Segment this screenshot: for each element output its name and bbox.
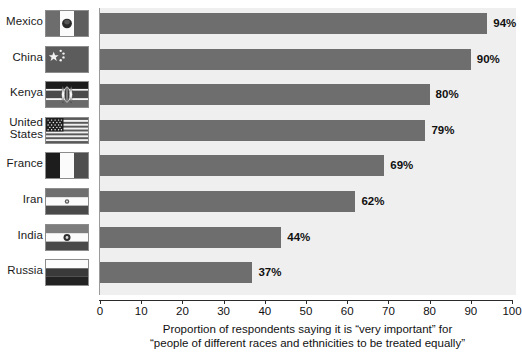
country-label-line: States bbox=[0, 128, 43, 141]
bar bbox=[100, 227, 281, 248]
x-axis-tick-label: 70 bbox=[382, 305, 395, 317]
x-axis-tick-label: 10 bbox=[135, 305, 148, 317]
x-axis-tick bbox=[471, 300, 472, 304]
x-axis-tick-label: 40 bbox=[258, 305, 271, 317]
bar bbox=[100, 120, 425, 141]
bar bbox=[100, 13, 487, 34]
bar-row: France 69% bbox=[0, 150, 516, 185]
x-axis-tick bbox=[430, 300, 431, 304]
bar-row: China 90% bbox=[0, 44, 516, 79]
bar-row: Iran 62% bbox=[0, 186, 516, 221]
bar-row: Mexico 94% bbox=[0, 8, 516, 43]
x-axis-tick bbox=[388, 300, 389, 304]
country-label-line: Mexico bbox=[0, 15, 43, 28]
x-axis-tick bbox=[182, 300, 183, 304]
country-label: China bbox=[0, 51, 43, 64]
bar-value-label: 79% bbox=[431, 120, 454, 141]
bar bbox=[100, 49, 471, 70]
bar-row: UnitedStates bbox=[0, 115, 516, 150]
bar-value-label: 80% bbox=[436, 84, 459, 105]
country-label-line: Russia bbox=[0, 264, 43, 277]
x-axis-tick-label: 30 bbox=[217, 305, 230, 317]
flag-russia-icon bbox=[45, 259, 89, 286]
bar-row: India 44% bbox=[0, 222, 516, 257]
x-axis-tick bbox=[141, 300, 142, 304]
country-label-line: Kenya bbox=[0, 86, 43, 99]
caption-line-1: Proportion of respondents saying it is “… bbox=[99, 322, 516, 336]
caption-line-2: “people of different races and ethniciti… bbox=[99, 336, 516, 350]
bar bbox=[100, 191, 355, 212]
country-label: Mexico bbox=[0, 15, 43, 28]
country-label-line: India bbox=[0, 229, 43, 242]
flag-kenya-icon bbox=[45, 81, 89, 108]
bar-value-label: 69% bbox=[390, 155, 413, 176]
flag-india-icon bbox=[45, 224, 89, 251]
bar-value-label: 37% bbox=[258, 262, 281, 283]
x-axis-tick bbox=[100, 300, 101, 304]
flag-mexico-icon bbox=[45, 10, 89, 37]
country-label: UnitedStates bbox=[0, 116, 43, 141]
x-axis-tick-label: 60 bbox=[341, 305, 354, 317]
flag-china-icon bbox=[45, 46, 89, 73]
country-label: Kenya bbox=[0, 86, 43, 99]
x-axis-tick bbox=[512, 300, 513, 304]
bar bbox=[100, 262, 252, 283]
bar-value-label: 44% bbox=[287, 227, 310, 248]
country-label-line: Iran bbox=[0, 193, 43, 206]
x-axis-tick bbox=[306, 300, 307, 304]
bar-row: Kenya 80% bbox=[0, 79, 516, 114]
x-axis-tick-label: 90 bbox=[464, 305, 477, 317]
country-label-line: France bbox=[0, 157, 43, 170]
country-label: Russia bbox=[0, 264, 43, 277]
bar-row: Russia 37% bbox=[0, 257, 516, 292]
bar bbox=[100, 84, 430, 105]
country-label: Iran bbox=[0, 193, 43, 206]
x-axis-tick bbox=[347, 300, 348, 304]
country-label-line: China bbox=[0, 51, 43, 64]
x-axis-tick-label: 0 bbox=[97, 305, 103, 317]
country-label: India bbox=[0, 229, 43, 242]
x-axis-tick bbox=[265, 300, 266, 304]
flag-iran-icon bbox=[45, 188, 89, 215]
country-label: France bbox=[0, 157, 43, 170]
bar-value-label: 94% bbox=[493, 13, 516, 34]
bar bbox=[100, 155, 384, 176]
flag-france-icon bbox=[45, 152, 89, 179]
x-axis-tick-label: 20 bbox=[176, 305, 189, 317]
bar-value-label: 90% bbox=[477, 49, 500, 70]
x-axis-tick-label: 80 bbox=[423, 305, 436, 317]
country-label-line: United bbox=[0, 116, 43, 129]
x-axis-tick-label: 50 bbox=[300, 305, 313, 317]
x-axis-tick bbox=[224, 300, 225, 304]
x-axis-tick-label: 100 bbox=[502, 305, 521, 317]
chart-caption: Proportion of respondents saying it is “… bbox=[99, 322, 516, 350]
flag-united-states-icon bbox=[45, 117, 89, 144]
bar-value-label: 62% bbox=[361, 191, 384, 212]
